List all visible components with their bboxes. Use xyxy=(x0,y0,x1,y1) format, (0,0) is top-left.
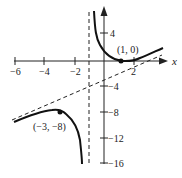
x-tick-label: 2 xyxy=(131,66,136,77)
y-tick-label: −8 xyxy=(108,107,119,118)
point-neg3-neg8 xyxy=(58,110,63,115)
point-label-1-0: (1, 0) xyxy=(117,44,139,56)
x-tick-label: −2 xyxy=(70,66,81,77)
y-tick-label: 4 xyxy=(110,28,115,39)
x-axis-label: x xyxy=(171,55,177,67)
point-label-neg3-neg8: (−3, −8) xyxy=(33,121,66,133)
function-graph: x −6 −4 −2 2 4 −4 −8 −12 −16 (1, 0) (−3,… xyxy=(0,0,182,178)
x-axis-arrow-icon xyxy=(159,58,168,65)
y-tick-label: −16 xyxy=(108,158,124,169)
y-tick-label: −12 xyxy=(108,133,124,144)
y-axis-arrow-icon xyxy=(101,6,108,16)
x-tick-label: −4 xyxy=(39,66,50,77)
slant-asymptote xyxy=(12,55,162,120)
y-tick-label: −4 xyxy=(108,81,119,92)
curve-left-branch xyxy=(14,110,82,164)
x-tick-label: −6 xyxy=(10,66,21,77)
point-1-0 xyxy=(119,59,124,64)
